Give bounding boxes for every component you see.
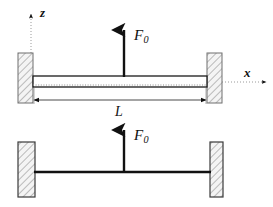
support-hatch-block xyxy=(210,142,223,197)
fixed-support-top-right xyxy=(207,53,222,103)
span-dimension-line xyxy=(34,88,206,104)
force-subscript: 0 xyxy=(143,134,148,145)
force-subscript: 0 xyxy=(143,34,148,45)
beam-diagram-figure: z x F0 F0 L xyxy=(0,0,273,207)
x-axis-label: x xyxy=(244,66,251,79)
z-axis-label: z xyxy=(40,6,45,19)
fixed-support-top-left xyxy=(18,53,33,103)
force-label-bottom: F0 xyxy=(134,128,148,145)
support-hatch-block xyxy=(207,53,222,103)
span-length-label: L xyxy=(115,105,123,119)
fixed-support-bottom-left xyxy=(18,142,35,197)
beam-line-model-view xyxy=(18,130,223,197)
force-symbol: F xyxy=(134,27,143,43)
beam-body-top xyxy=(33,76,207,87)
support-hatch-block xyxy=(18,142,35,197)
fixed-support-bottom-right xyxy=(210,142,223,197)
support-hatch-block xyxy=(18,53,33,103)
force-symbol: F xyxy=(134,127,143,143)
force-label-top: F0 xyxy=(134,28,148,45)
